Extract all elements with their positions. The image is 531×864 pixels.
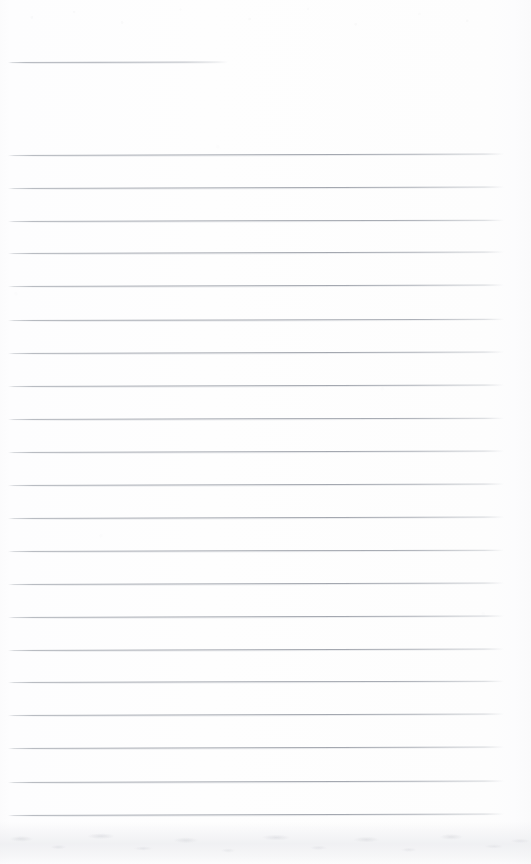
rule-line [8, 352, 504, 354]
rule-line [8, 220, 504, 222]
rule-line [8, 484, 504, 486]
rule-line [8, 385, 504, 387]
scanned-page: Blank Lined Page [0, 0, 531, 864]
rule-line [8, 649, 504, 651]
rule-line [8, 550, 504, 552]
rule-line [8, 450, 504, 453]
rule-line [8, 252, 504, 254]
ruled-line-group [0, 0, 531, 864]
rule-line [8, 154, 504, 156]
rule-line [8, 418, 504, 420]
rule-line [8, 319, 504, 321]
rule-line [8, 285, 504, 287]
rule-line [8, 681, 504, 683]
rule-line [8, 615, 504, 618]
header-rule-line [8, 62, 228, 63]
rule-line [8, 517, 504, 519]
rule-line [8, 747, 504, 749]
rule-line [8, 780, 504, 783]
rule-line [8, 714, 504, 716]
rule-line [8, 814, 504, 816]
rule-line [8, 583, 504, 585]
rule-line [8, 186, 504, 189]
